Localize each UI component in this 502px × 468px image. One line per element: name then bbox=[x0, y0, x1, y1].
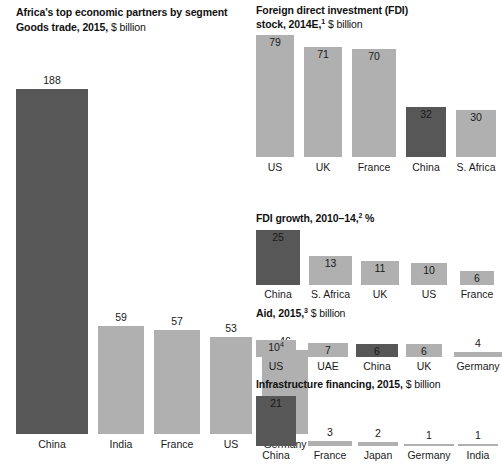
bar-france[interactable] bbox=[154, 330, 200, 434]
growth-bar-france[interactable]: 6 bbox=[460, 271, 494, 285]
infra-bar-column-india[interactable]: 1 bbox=[458, 429, 498, 446]
fdi-stock-chart-panel: Foreign direct investment (FDI) stock, 2… bbox=[256, 4, 482, 31]
goods-trade-chart-panel: Africa's top economic partners by segmen… bbox=[0, 0, 250, 468]
bar-china[interactable] bbox=[16, 89, 88, 434]
category-cell-france: France bbox=[154, 438, 200, 452]
growth-bar-china[interactable]: 25 bbox=[256, 230, 300, 285]
aid-bar-column-uae[interactable]: 7 bbox=[308, 343, 348, 357]
infra-category-label-china: China bbox=[262, 449, 289, 461]
page-title: Africa's top economic partners by segmen… bbox=[16, 6, 227, 20]
infra-category-cell-france: France bbox=[308, 449, 352, 463]
fdi-category-label-france: France bbox=[358, 161, 391, 173]
aid-chart-panel: Aid, 2015,3 $ billion 104 7 6 6 4 bbox=[256, 307, 482, 321]
aid-category-label-uae: UAE bbox=[317, 360, 339, 372]
growth-category-cell-us: US bbox=[411, 288, 447, 302]
infra-bar-column-germany[interactable]: 1 bbox=[404, 429, 454, 446]
infra-category-label-india: India bbox=[467, 449, 490, 461]
goods-trade-subtitle: Goods trade, 2015, $ billion bbox=[16, 21, 146, 35]
infra-category-cell-india: India bbox=[458, 449, 498, 463]
aid-bar-value-uae: 7 bbox=[308, 343, 348, 356]
fdi-bar-value-china: 32 bbox=[406, 107, 446, 120]
growth-category-label-us: US bbox=[422, 288, 437, 300]
growth-bar-column-s-africa[interactable]: 13 bbox=[309, 256, 352, 285]
fdi-bar-s-africa[interactable]: 30 bbox=[456, 110, 496, 157]
aid-bar-column-germany[interactable]: 4 bbox=[454, 337, 502, 357]
bar-column-india[interactable]: 59 bbox=[98, 311, 144, 434]
infra-bar-column-china[interactable]: 21 bbox=[256, 396, 296, 446]
infra-bar-japan[interactable] bbox=[358, 442, 398, 446]
aid-bar-us[interactable]: 104 bbox=[256, 340, 296, 357]
growth-bar-column-uk[interactable]: 11 bbox=[361, 261, 399, 285]
infra-bar-column-japan[interactable]: 2 bbox=[358, 427, 398, 446]
aid-category-cell-uk: UK bbox=[406, 360, 442, 374]
infra-bar-value-india: 1 bbox=[475, 429, 481, 441]
category-label-us: US bbox=[224, 438, 239, 450]
fdi-stock-category-labels: US UK France China S. Africa bbox=[256, 161, 496, 175]
goods-trade-subtitle-unit: $ billion bbox=[111, 21, 146, 33]
aid-bar-value-germany: 4 bbox=[475, 337, 481, 349]
infra-bar-column-france[interactable]: 3 bbox=[308, 426, 352, 446]
bar-column-france[interactable]: 57 bbox=[154, 315, 200, 434]
fdi-growth-title-bold: FDI growth, 2010–14, bbox=[256, 212, 358, 224]
aid-bar-column-china[interactable]: 6 bbox=[356, 344, 398, 357]
aid-category-label-uk: UK bbox=[417, 360, 432, 372]
fdi-growth-chart-panel: FDI growth, 2010–14,2 % 25 13 11 10 6 bbox=[256, 212, 482, 226]
infrastructure-financing-chart-panel: Infrastructure financing, 2015, $ billio… bbox=[256, 378, 482, 392]
fdi-bar-column-france[interactable]: 70 bbox=[352, 49, 396, 157]
growth-bar-value-france: 6 bbox=[460, 271, 494, 284]
fdi-bar-column-us[interactable]: 79 bbox=[256, 35, 294, 157]
infrastructure-bars: 21 3 2 1 1 bbox=[256, 396, 498, 446]
infra-bar-germany[interactable] bbox=[404, 444, 454, 446]
bar-column-us[interactable]: 53 bbox=[210, 322, 252, 434]
growth-category-cell-uk: UK bbox=[361, 288, 399, 302]
aid-category-labels: US UAE China UK Germany bbox=[256, 360, 502, 374]
growth-category-cell-china: China bbox=[256, 288, 300, 302]
aid-bar-value-uk: 6 bbox=[406, 344, 442, 357]
fdi-bar-us[interactable]: 79 bbox=[256, 35, 294, 157]
growth-bar-column-china[interactable]: 25 bbox=[256, 230, 300, 285]
aid-bar-uae[interactable]: 7 bbox=[308, 343, 348, 357]
bar-us[interactable] bbox=[210, 337, 252, 434]
aid-bar-column-uk[interactable]: 6 bbox=[406, 344, 442, 357]
fdi-bar-china[interactable]: 32 bbox=[406, 107, 446, 157]
infra-bar-india[interactable] bbox=[458, 444, 498, 446]
infra-category-label-japan: Japan bbox=[364, 449, 393, 461]
growth-bar-us[interactable]: 10 bbox=[411, 263, 447, 285]
bar-india[interactable] bbox=[98, 326, 144, 434]
aid-category-cell-uae: UAE bbox=[308, 360, 348, 374]
growth-bar-s-africa[interactable]: 13 bbox=[309, 256, 352, 285]
aid-title-unit: $ billion bbox=[311, 307, 346, 319]
fdi-growth-bars: 25 13 11 10 6 bbox=[256, 230, 494, 285]
fdi-category-cell-china: China bbox=[406, 161, 446, 175]
fdi-bar-column-china[interactable]: 32 bbox=[406, 107, 446, 157]
growth-bar-column-france[interactable]: 6 bbox=[460, 271, 494, 285]
growth-bar-column-us[interactable]: 10 bbox=[411, 263, 447, 285]
bar-column-china[interactable]: 188 bbox=[16, 74, 88, 434]
fdi-category-cell-s-africa: S. Africa bbox=[456, 161, 496, 175]
growth-category-label-s-africa: S. Africa bbox=[311, 288, 350, 300]
aid-bar-china[interactable]: 6 bbox=[356, 344, 398, 357]
infra-bar-china[interactable]: 21 bbox=[256, 396, 296, 446]
goods-trade-subtitle-bold: Goods trade, 2015, bbox=[16, 21, 108, 33]
fdi-growth-title: FDI growth, 2010–14,2 % bbox=[256, 212, 482, 226]
aid-bar-germany[interactable] bbox=[454, 352, 502, 357]
fdi-category-label-us: US bbox=[268, 161, 283, 173]
fdi-bar-column-uk[interactable]: 71 bbox=[304, 47, 342, 157]
fdi-bar-column-s-africa[interactable]: 30 bbox=[456, 110, 496, 157]
category-label-india: India bbox=[110, 438, 133, 450]
fdi-growth-category-labels: China S. Africa UK US France bbox=[256, 288, 494, 302]
category-cell-us: US bbox=[210, 438, 252, 452]
fdi-bar-value-uk: 71 bbox=[304, 47, 342, 60]
infrastructure-title-bold: Infrastructure financing, 2015, bbox=[256, 378, 403, 390]
infra-bar-value-germany: 1 bbox=[426, 429, 432, 441]
growth-bar-value-s-africa: 13 bbox=[309, 256, 352, 269]
aid-bar-column-us[interactable]: 104 bbox=[256, 340, 296, 357]
aid-bar-uk[interactable]: 6 bbox=[406, 344, 442, 357]
growth-bar-uk[interactable]: 11 bbox=[361, 261, 399, 285]
fdi-bar-france[interactable]: 70 bbox=[352, 49, 396, 157]
infra-bar-france[interactable] bbox=[308, 441, 352, 446]
fdi-stock-title-line1: Foreign direct investment (FDI) bbox=[256, 4, 482, 18]
fdi-stock-title-unit: $ billion bbox=[328, 18, 363, 30]
fdi-bar-uk[interactable]: 71 bbox=[304, 47, 342, 157]
fdi-category-label-china: China bbox=[412, 161, 439, 173]
